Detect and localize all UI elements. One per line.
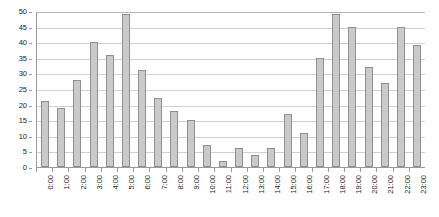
x-axis-tick — [360, 168, 361, 172]
bar-slot — [393, 12, 409, 167]
y-axis-tick-label: 30 — [19, 71, 27, 79]
bar — [170, 111, 178, 167]
x-axis-tick-label: 13:00 — [258, 175, 266, 194]
x-axis-tick-label: 14:00 — [274, 175, 282, 194]
y-axis-tick — [29, 74, 32, 75]
y-axis-tick — [29, 152, 32, 153]
y-axis-tick — [29, 90, 32, 91]
bar-slot — [150, 12, 166, 167]
y-axis-tick-label: 20 — [19, 102, 27, 110]
y-axis-tick-label: 10 — [19, 133, 27, 141]
bar — [316, 58, 324, 167]
x-axis-tick — [117, 168, 118, 172]
x-axis-tick-label: 7:00 — [161, 175, 169, 190]
bar-slot — [409, 12, 425, 167]
y-axis-tick-label: 45 — [19, 24, 27, 32]
x-axis-tick — [279, 168, 280, 172]
bar — [251, 155, 259, 167]
x-axis-tick — [166, 168, 167, 172]
x-axis-tick-label: 12:00 — [242, 175, 250, 194]
bar — [57, 108, 65, 167]
x-axis-tick-label: 1:00 — [63, 175, 71, 190]
y-axis-tick-label: 35 — [19, 55, 27, 63]
bar — [300, 133, 308, 167]
x-axis-tick-label: 21:00 — [387, 175, 395, 194]
plot-area — [36, 12, 425, 168]
bar — [41, 101, 49, 167]
y-axis-tick — [29, 137, 32, 138]
bar-chart: 05101520253035404550 0:001:002:003:004:0… — [0, 0, 439, 217]
bar — [381, 83, 389, 167]
y-axis-tick-label: 15 — [19, 117, 27, 125]
x-axis-tick — [198, 168, 199, 172]
y-axis-tick-label: 5 — [23, 149, 27, 157]
x-axis-tick — [295, 168, 296, 172]
bar — [154, 98, 162, 167]
x-axis-tick — [409, 168, 410, 172]
bar-slot — [247, 12, 263, 167]
x-axis-tick-label: 23:00 — [420, 175, 428, 194]
x-axis-tick — [52, 168, 53, 172]
x-axis-tick — [328, 168, 329, 172]
bar-slot — [312, 12, 328, 167]
bar-slot — [37, 12, 53, 167]
x-axis-tick-label: 4:00 — [112, 175, 120, 190]
x-axis-tick-label: 19:00 — [355, 175, 363, 194]
x-axis-tick — [214, 168, 215, 172]
y-axis-tick-label: 50 — [19, 8, 27, 16]
x-axis-tick-label: 16:00 — [306, 175, 314, 194]
x-axis-tick — [344, 168, 345, 172]
bar-slot — [215, 12, 231, 167]
x-axis-tick-label: 20:00 — [371, 175, 379, 194]
bar-slot — [328, 12, 344, 167]
x-axis-tick-label: 9:00 — [193, 175, 201, 190]
y-axis-tick — [29, 59, 32, 60]
x-axis: 0:001:002:003:004:005:006:007:008:009:00… — [36, 168, 425, 217]
bar-slot — [53, 12, 69, 167]
bar-slot — [86, 12, 102, 167]
bar — [332, 14, 340, 167]
y-axis: 05101520253035404550 — [0, 12, 32, 168]
bar — [187, 120, 195, 167]
bar — [203, 145, 211, 167]
bar — [73, 80, 81, 167]
bar-slot — [360, 12, 376, 167]
y-axis-tick — [29, 43, 32, 44]
y-axis-tick — [29, 12, 32, 13]
x-axis-tick-label: 6:00 — [144, 175, 152, 190]
x-axis-tick — [247, 168, 248, 172]
bar — [106, 55, 114, 167]
y-axis-tick-label: 0 — [23, 164, 27, 172]
x-axis-tick — [68, 168, 69, 172]
x-axis-tick-label: 11:00 — [225, 175, 233, 193]
x-axis-tick — [263, 168, 264, 172]
x-axis-tick-label: 3:00 — [96, 175, 104, 190]
bar-slot — [344, 12, 360, 167]
x-axis-tick — [133, 168, 134, 172]
bar — [267, 148, 275, 167]
bar — [219, 161, 227, 167]
x-axis-tick-label: 10:00 — [209, 175, 217, 194]
bar-slot — [102, 12, 118, 167]
y-axis-tick-label: 40 — [19, 39, 27, 47]
x-axis-tick — [376, 168, 377, 172]
x-axis-tick — [312, 168, 313, 172]
y-axis-tick — [29, 121, 32, 122]
x-axis-tick-label: 2:00 — [80, 175, 88, 190]
bar-slot — [199, 12, 215, 167]
y-axis-tick — [29, 28, 32, 29]
x-axis-tick-label: 8:00 — [177, 175, 185, 190]
bar — [397, 27, 405, 167]
x-axis-tick — [101, 168, 102, 172]
x-axis-tick — [231, 168, 232, 172]
x-axis-tick — [36, 168, 37, 172]
x-axis-tick — [182, 168, 183, 172]
x-axis-tick — [149, 168, 150, 172]
bar — [122, 14, 130, 167]
bar — [235, 148, 243, 167]
bar — [365, 67, 373, 167]
bar-slot — [134, 12, 150, 167]
bar-slot — [183, 12, 199, 167]
y-axis-tick — [29, 168, 32, 169]
bar — [90, 42, 98, 167]
